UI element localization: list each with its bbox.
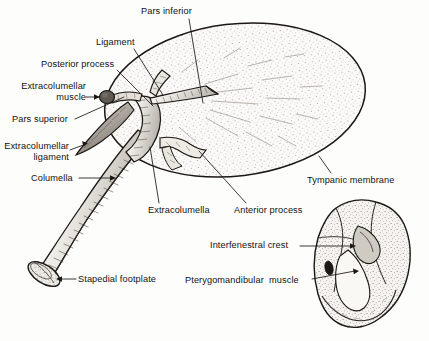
- inset-middle-ear: [314, 200, 410, 327]
- label-extracolumellar-muscle: Extracolumellar muscle: [6, 81, 86, 103]
- label-stapedial-footplate: Stapedial footplate: [78, 274, 156, 285]
- label-posterior-process: Posterior process: [41, 59, 114, 70]
- label-anterior-process: Anterior process: [234, 205, 303, 216]
- extracolumellar-muscle-knob: [100, 91, 115, 104]
- label-ligament: Ligament: [96, 37, 135, 48]
- arrowhead-extracolumellar-muscle: [94, 94, 100, 100]
- label-extracolumellar-ligament: Extracolumellar ligament: [3, 141, 69, 163]
- anatomical-figure: Pars inferior Ligament Posterior process…: [0, 0, 429, 341]
- label-pars-superior: Pars superior: [12, 114, 68, 125]
- label-interfenestral-crest: Interfenestral crest: [210, 240, 288, 251]
- label-columella: Columella: [31, 173, 73, 184]
- leader-tympanic-membrane: [319, 156, 331, 173]
- label-pars-inferior: Pars inferior: [141, 6, 192, 17]
- label-pterygomandibular-muscle: Pterygomandibular muscle: [185, 275, 299, 286]
- label-tympanic-membrane: Tympanic membrane: [307, 175, 394, 186]
- label-extracolumella: Extracolumella: [148, 205, 210, 216]
- diagram-artwork: [0, 0, 429, 341]
